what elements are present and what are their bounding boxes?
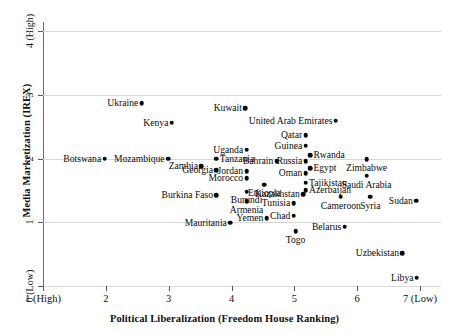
x-tick-mark-2 (106, 286, 107, 291)
data-point-label: Ukraine (107, 98, 138, 108)
data-point-label: Belarus (312, 222, 341, 232)
data-point (293, 229, 298, 234)
data-point-label: Tunisia (262, 198, 290, 208)
y-tick-label-0: 0 (Low) (24, 260, 36, 312)
x-tick-label-6: 6 (355, 293, 360, 304)
data-point-label: Chad (270, 211, 290, 221)
data-point (303, 171, 308, 176)
data-point-label: Qatar (281, 130, 302, 140)
data-point-label: Cameroon (321, 201, 361, 211)
data-point (303, 159, 308, 164)
data-point-label: United Arab Emirates (249, 116, 333, 126)
x-tick-mark-6 (357, 286, 358, 291)
data-point (264, 216, 269, 221)
x-tick-label-2: 2 (103, 293, 108, 304)
x-tick-label-7: 7 (Low) (403, 293, 437, 304)
data-point (291, 201, 296, 206)
data-point-label: Guinea (275, 141, 303, 151)
data-point (414, 198, 419, 203)
data-point (415, 275, 420, 280)
data-point-label: Kuwait (214, 103, 242, 113)
y-tick-label-2: 2 (24, 152, 36, 166)
data-point (303, 143, 308, 148)
data-point (262, 182, 267, 187)
x-tick-label-4: 4 (229, 293, 234, 304)
data-point (243, 106, 248, 111)
data-point-label: Libya (391, 273, 413, 283)
data-point (368, 194, 373, 199)
data-point-label: Russia (277, 156, 303, 166)
data-point (364, 173, 369, 178)
data-point (308, 166, 313, 171)
data-point (334, 119, 339, 124)
data-point-label: Egypt (313, 163, 336, 173)
data-point (339, 194, 344, 199)
data-point (303, 180, 308, 185)
x-tick-mark-7 (420, 286, 421, 291)
y-tick-label-4: 4 (High) (24, 5, 36, 57)
gridline-y-0 (43, 286, 441, 287)
data-point (244, 147, 249, 152)
data-point (301, 192, 306, 197)
data-point (244, 169, 249, 174)
data-point (342, 224, 347, 229)
data-point (244, 176, 249, 181)
data-point-label: Botswana (63, 154, 101, 164)
data-point-label: Azerbaijan (309, 186, 351, 196)
x-tick-mark-1 (43, 286, 44, 291)
data-point-label: Rwanda (313, 151, 344, 161)
data-point-label: Togo (286, 235, 306, 245)
data-point-label: Burkina Faso (162, 191, 213, 201)
data-point-label: Mauritania (185, 218, 227, 228)
data-point (291, 214, 296, 219)
data-point (228, 221, 233, 226)
y-tick-label-3: 3 (24, 88, 36, 102)
data-point-label: Syria (360, 201, 380, 211)
x-tick-mark-5 (294, 286, 295, 291)
x-tick-label-5: 5 (292, 293, 297, 304)
y-tick-label-1: 1 (24, 215, 36, 229)
data-point-label: Oman (279, 168, 302, 178)
data-point-label: Bahrain (243, 156, 273, 166)
x-tick-mark-4 (232, 286, 233, 291)
data-point (214, 156, 219, 161)
data-point (102, 156, 107, 161)
data-point (244, 199, 249, 204)
data-point (214, 193, 219, 198)
x-tick-mark-3 (169, 286, 170, 291)
data-point (139, 101, 144, 106)
data-point (364, 157, 369, 162)
x-tick-label-1: 1 (High) (25, 293, 61, 304)
data-point-label: Morocco (209, 173, 244, 183)
scatter-chart: Media Marketization (IREX) Political Lib… (0, 0, 449, 334)
plot-area: UkraineKenyaKuwaitUnited Arab EmiratesQa… (43, 22, 441, 286)
data-point-label: Zimbabwe (346, 163, 387, 173)
x-axis-title: Political Liberalization (Freedom House … (0, 313, 449, 324)
data-point-label: Yemen (237, 214, 264, 224)
data-point-label: Sudan (389, 196, 413, 206)
data-point (303, 133, 308, 138)
x-tick-label-3: 3 (166, 293, 171, 304)
data-point (170, 121, 175, 126)
data-point-label: Kenya (143, 118, 168, 128)
data-point-label: Mozambique (114, 154, 165, 164)
data-point-label: Uzbekistan (356, 249, 399, 259)
data-point (308, 153, 313, 158)
data-point (244, 189, 249, 194)
data-point (400, 251, 405, 256)
